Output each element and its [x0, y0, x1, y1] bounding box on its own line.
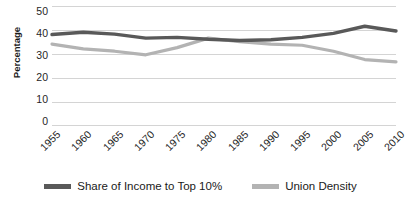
x-tick-label: 1980 — [191, 128, 219, 156]
y-axis-tick-labels: 50 40 30 20 10 0 — [18, 0, 48, 198]
x-tick-label: 2005 — [347, 128, 375, 156]
legend-entry-share-of-income: Share of Income to Top 10% — [44, 180, 222, 192]
y-tick-label: 0 — [24, 116, 48, 127]
plot-area — [52, 6, 396, 126]
x-tick-label: 1960 — [65, 128, 93, 156]
x-tick-label: 1975 — [159, 128, 187, 156]
x-axis-tick-labels: 1955196019651970197519801985199019952000… — [52, 126, 396, 170]
legend-label: Share of Income to Top 10% — [77, 180, 222, 192]
x-tick-label: 1995 — [284, 128, 312, 156]
chart-legend: Share of Income to Top 10% Union Density — [0, 176, 401, 196]
line-share-of-income — [52, 26, 396, 40]
x-tick-label: 2010 — [378, 128, 406, 156]
legend-swatch-icon — [252, 184, 279, 189]
legend-label: Union Density — [285, 180, 357, 192]
y-tick-label: 20 — [24, 72, 48, 83]
series-lines — [52, 6, 396, 126]
x-tick-label: 1990 — [253, 128, 281, 156]
y-tick-label: 10 — [24, 94, 48, 105]
x-tick-label: 1985 — [222, 128, 250, 156]
y-tick-label: 40 — [24, 28, 48, 39]
legend-entry-union-density: Union Density — [252, 180, 357, 192]
y-tick-label: 30 — [24, 50, 48, 61]
line-union-density — [52, 38, 396, 62]
legend-swatch-icon — [44, 184, 71, 189]
y-tick-label: 50 — [24, 6, 48, 17]
x-tick-label: 1970 — [128, 128, 156, 156]
x-tick-label: 2000 — [316, 128, 344, 156]
x-tick-label: 1965 — [97, 128, 125, 156]
